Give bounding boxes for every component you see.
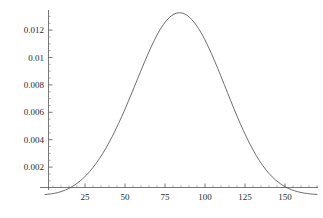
chart-svg — [0, 0, 323, 218]
chart-plot-area: 0.0020.0040.0060.0080.010.012 2550751001… — [0, 0, 323, 218]
y-axis-tick-label: 0.008 — [24, 80, 44, 90]
axis-lines — [40, 10, 318, 190]
y-axis-tick-label: 0.002 — [24, 162, 44, 172]
x-axis-tick-label: 100 — [185, 192, 225, 202]
x-axis-tick-label: 150 — [265, 192, 305, 202]
y-axis-tick-label: 0.006 — [24, 107, 44, 117]
density-curve — [45, 13, 317, 195]
x-axis-tick-label: 75 — [145, 192, 185, 202]
y-axis-tick-label: 0.012 — [24, 25, 44, 35]
x-axis-major-ticks — [85, 184, 285, 188]
x-axis-tick-label: 25 — [65, 192, 105, 202]
y-axis-tick-label: 0.004 — [24, 135, 44, 145]
x-axis-tick-label: 125 — [225, 192, 265, 202]
y-axis-tick-label: 0.01 — [28, 53, 44, 63]
x-axis-tick-label: 50 — [105, 192, 145, 202]
